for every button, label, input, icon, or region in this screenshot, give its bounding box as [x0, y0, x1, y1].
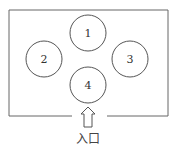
circle-1-label: 1 [85, 27, 92, 40]
room-outline [9, 10, 168, 116]
circle-4-label: 4 [85, 79, 92, 92]
entrance-label: 入口 [76, 132, 100, 146]
circle-1: 1 [70, 15, 106, 51]
circle-4: 4 [70, 67, 106, 103]
circle-2: 2 [26, 41, 62, 77]
circle-3-label: 3 [127, 53, 134, 66]
up-arrow-icon [81, 107, 95, 127]
circle-3: 3 [112, 41, 148, 77]
floor-plan-diagram: 1 2 3 4 入口 [0, 0, 177, 155]
circle-2-label: 2 [41, 53, 48, 66]
